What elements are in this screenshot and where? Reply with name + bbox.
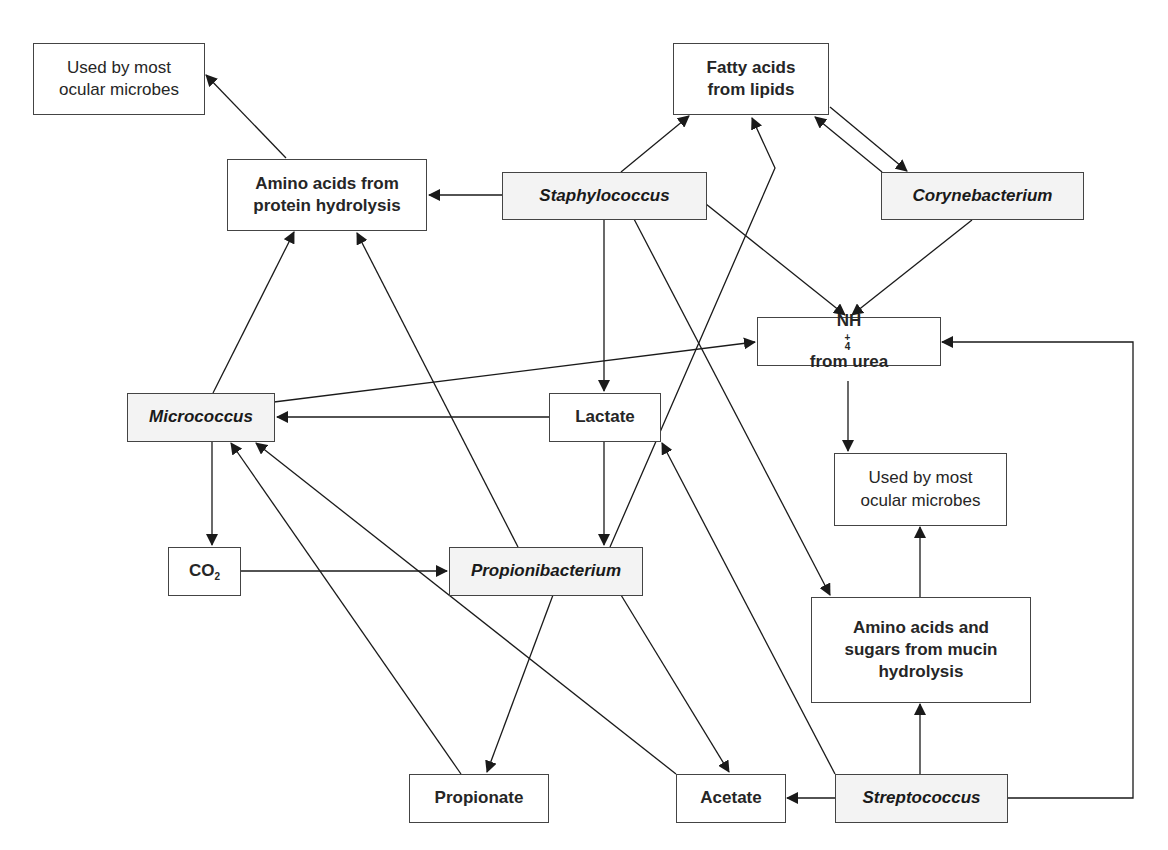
node-text: Propionibacterium (471, 560, 621, 582)
edge-amino-to-used-left (206, 75, 286, 158)
co2-sub: 2 (214, 571, 220, 582)
node-staphylococcus: Staphylococcus (502, 172, 707, 220)
edge-strep-to-lactate (662, 443, 835, 774)
node-fatty-acids-from-lipids: Fatty acids from lipids (673, 43, 829, 115)
node-micrococcus: Micrococcus (127, 393, 275, 442)
edge-propionate-to-micro (231, 443, 461, 774)
nh4-charge-stack: +4 (811, 333, 884, 351)
edge-micro-to-amino (213, 232, 294, 393)
node-text: Fatty acids (707, 57, 796, 79)
node-lactate: Lactate (549, 393, 661, 442)
nh4-base: NH (837, 311, 862, 330)
node-text: Staphylococcus (539, 185, 669, 207)
node-used-by-ocular-microbes-left: Used by most ocular microbes (33, 43, 205, 115)
node-co2: CO2 (168, 547, 241, 596)
node-text: NH+4from urea (810, 310, 888, 372)
edge-staph-to-nh4 (706, 204, 845, 315)
node-text: Amino acids from (253, 173, 400, 195)
node-text: protein hydrolysis (253, 195, 400, 217)
edge-coryne-to-fatty (815, 117, 882, 172)
node-text: Amino acids and (844, 617, 997, 639)
edge-coryne-to-nh4 (852, 220, 972, 315)
node-text: sugars from mucin (844, 639, 997, 661)
node-acetate: Acetate (676, 774, 786, 823)
node-text: Acetate (700, 787, 761, 809)
node-text: ocular microbes (59, 79, 179, 101)
node-amino-acids-sugars-mucin-hydrolysis: Amino acids and sugars from mucin hydrol… (811, 597, 1031, 703)
node-text: Used by most (59, 57, 179, 79)
node-text: from lipids (707, 79, 796, 101)
edge-acetate-to-micro (256, 443, 676, 774)
node-streptococcus: Streptococcus (835, 774, 1008, 823)
node-propionate: Propionate (409, 774, 549, 823)
edge-micro-to-nh4 (274, 342, 755, 402)
node-text: CO2 (189, 560, 220, 583)
node-text: Used by most (861, 467, 981, 489)
nh4-rest: from urea (810, 352, 888, 371)
node-amino-acids-protein-hydrolysis: Amino acids from protein hydrolysis (227, 159, 427, 231)
edge-propioni-to-propionate (487, 595, 553, 772)
node-text: Lactate (575, 406, 635, 428)
node-text: Corynebacterium (913, 185, 1053, 207)
node-corynebacterium: Corynebacterium (881, 172, 1084, 220)
nh4-sub: 4 (811, 342, 884, 351)
node-text: Micrococcus (149, 406, 253, 428)
co2-base: CO (189, 561, 215, 580)
node-nh4-from-urea: NH+4from urea (757, 317, 941, 366)
edge-propioni-to-acetate (621, 595, 729, 772)
node-text: hydrolysis (844, 661, 997, 683)
edge-propioni-to-amino (357, 233, 518, 547)
node-text: Propionate (435, 787, 524, 809)
edge-staph-to-fatty (621, 116, 689, 172)
node-used-by-ocular-microbes-right: Used by most ocular microbes (834, 453, 1007, 526)
edge-strep-to-nh4 (942, 342, 1133, 798)
node-text: Streptococcus (862, 787, 980, 809)
node-propionibacterium: Propionibacterium (449, 547, 643, 596)
node-text: ocular microbes (861, 490, 981, 512)
edge-staph-to-mucin (634, 219, 830, 595)
metabolic-network-diagram: Used by most ocular microbes Amino acids… (0, 0, 1168, 850)
